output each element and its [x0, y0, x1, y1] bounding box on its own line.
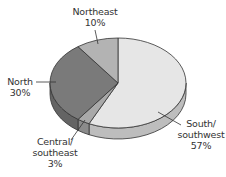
label-south: South/ southwest 57% — [176, 118, 226, 151]
label-northeast: Northeast 10% — [66, 6, 124, 28]
label-central-value: 3% — [30, 158, 80, 169]
label-south-name: South/ — [176, 118, 226, 129]
label-central: Central/ southeast 3% — [30, 136, 80, 169]
label-north: North 30% — [2, 76, 38, 98]
label-north-value: 30% — [2, 87, 38, 98]
label-central-name: Central/ — [30, 136, 80, 147]
pie-slices — [50, 38, 186, 139]
label-northeast-name: Northeast — [66, 6, 124, 17]
label-north-name: North — [2, 76, 38, 87]
label-northeast-value: 10% — [66, 17, 124, 28]
label-south-name2: southwest — [176, 129, 226, 140]
label-central-name2: southeast — [30, 147, 80, 158]
label-south-value: 57% — [176, 140, 226, 151]
